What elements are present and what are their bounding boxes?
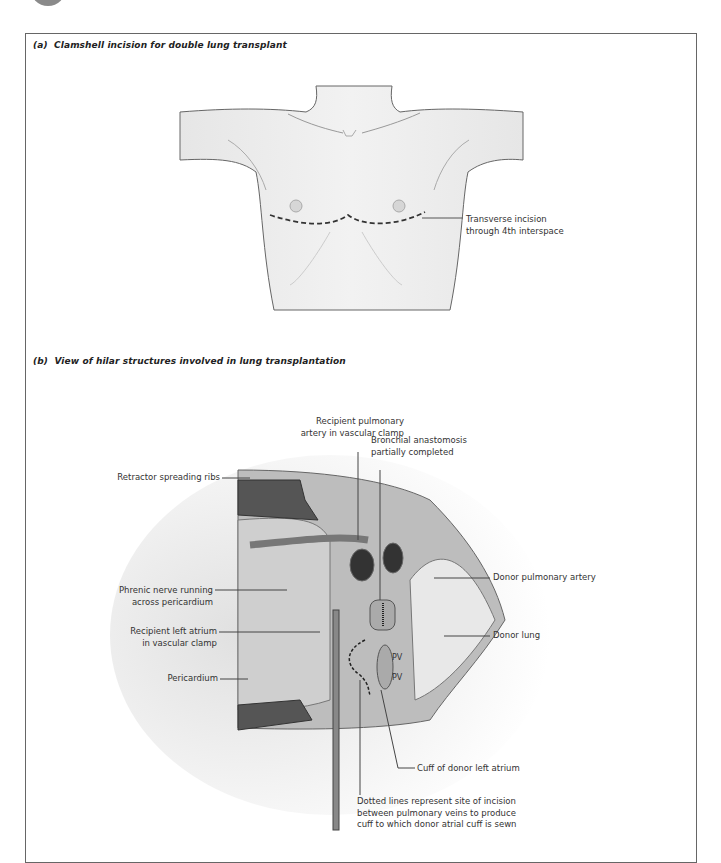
label-recipient-left-atrium: Recipient left atrium in vascular clamp — [80, 626, 217, 649]
label-pv-upper: PV — [392, 652, 402, 664]
label-phrenic-nerve: Phrenic nerve running across pericardium — [80, 585, 213, 608]
label-donor-lung: Donor lung — [493, 630, 540, 642]
label-donor-pulmonary-artery: Donor pulmonary artery — [493, 572, 596, 584]
label-retractor: Retractor spreading ribs — [80, 472, 220, 484]
label-bronchial-anastomosis: Bronchial anastomosis partially complete… — [371, 435, 467, 458]
label-cuff-donor-left-atrium: Cuff of donor left atrium — [417, 763, 520, 775]
label-pericardium: Pericardium — [80, 673, 218, 685]
label-dotted-lines: Dotted lines represent site of incision … — [357, 796, 516, 831]
label-pv-lower: PV — [392, 672, 402, 684]
